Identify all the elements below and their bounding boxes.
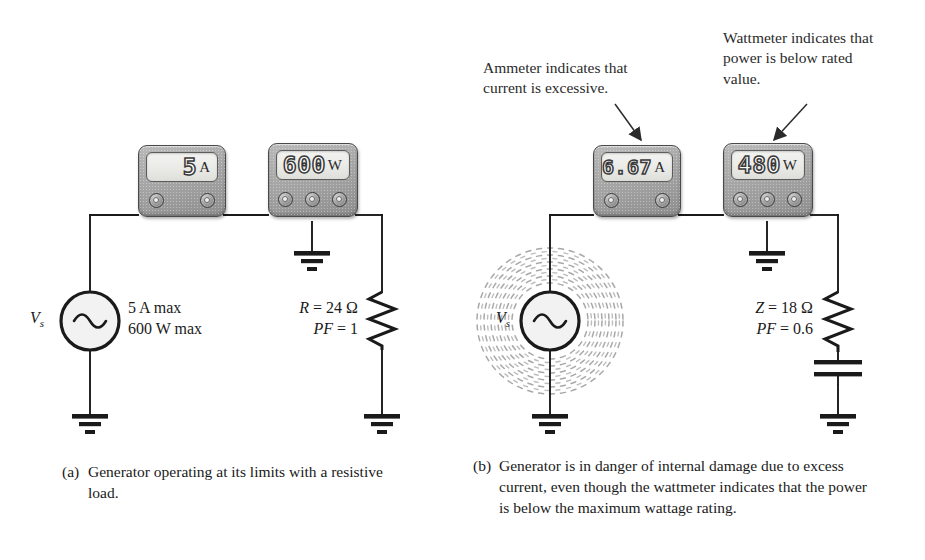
wattmeter-b-value: 480 [738, 154, 781, 177]
ammeter-b-display: 6.67 A [601, 152, 673, 182]
wattmeter-b-terminal-center[interactable] [760, 192, 775, 207]
source-rating-line2: 600 W max [128, 319, 202, 340]
wattmeter-a-value: 600 [283, 154, 326, 177]
caption-b: (b) Generator is in danger of internal d… [473, 455, 873, 518]
ammeter-b-terminal-left[interactable] [604, 193, 619, 208]
wattmeter-a-terminal-right[interactable] [332, 192, 347, 207]
capacitor-b [814, 360, 862, 376]
ground-load-b [820, 414, 856, 434]
source-symbol-b: Vs [496, 309, 510, 326]
wattmeter-a-terminal-center[interactable] [305, 192, 320, 207]
resistor-b [825, 292, 851, 352]
ammeter-a-value: 5 [183, 156, 197, 179]
ground-load-a [364, 414, 400, 434]
ground-wattmeter-b [749, 251, 785, 271]
wattmeter-b-terminal-right[interactable] [787, 192, 802, 207]
caption-a: (a) Generator operating at its limits wi… [62, 461, 392, 503]
ammeter-b[interactable]: 6.67 A [593, 145, 681, 217]
ac-source-a [61, 292, 119, 350]
wattmeter-a-display: 600 W [276, 150, 350, 180]
ammeter-annotation-arrow [615, 104, 641, 140]
load-pf-a: PF = 1 [218, 319, 358, 340]
annotation-wattmeter: Wattmeter indicates that power is below … [723, 28, 893, 89]
wattmeter-a[interactable]: 600 W [268, 143, 358, 217]
source-rating-line1: 5 A max [128, 298, 202, 319]
caption-b-text: Generator is in danger of internal damag… [499, 455, 873, 518]
panel-a: 5 A 600 W Vs 5 A max 600 W max R = 24 Ω … [0, 0, 462, 560]
ammeter-a[interactable]: 5 A [138, 145, 226, 217]
ammeter-b-unit: A [654, 160, 665, 175]
caption-b-label: (b) [473, 455, 491, 476]
wattmeter-a-terminal-left[interactable] [278, 192, 293, 207]
ammeter-b-value: 6.67 [602, 157, 652, 177]
ac-source-b [521, 292, 579, 350]
ammeter-a-terminal-right[interactable] [200, 193, 215, 208]
ammeter-a-terminal-left[interactable] [149, 193, 164, 208]
ammeter-a-display: 5 A [146, 152, 218, 182]
load-resistance-a: R = 24 Ω [218, 298, 358, 319]
wattmeter-b-display: 480 W [731, 150, 805, 180]
source-symbol-a: Vs [30, 309, 44, 326]
wattmeter-annotation-arrow [774, 104, 807, 140]
wattmeter-a-unit: W [328, 158, 342, 173]
source-label-a: Vs [30, 308, 44, 330]
caption-a-text: Generator operating at its limits with a… [88, 461, 392, 503]
load-impedance-b: Z = 18 Ω [673, 298, 813, 319]
load-pf-b: PF = 0.6 [673, 319, 813, 340]
wattmeter-b-unit: W [783, 158, 797, 173]
resistor-a [369, 292, 395, 350]
ammeter-b-terminal-right[interactable] [655, 193, 670, 208]
wattmeter-b-terminal-left[interactable] [733, 192, 748, 207]
annotation-ammeter: Ammeter indicates that current is excess… [483, 58, 661, 99]
ground-source-a [72, 414, 108, 434]
panel-b: Ammeter indicates that current is excess… [463, 0, 925, 560]
load-labels-a: R = 24 Ω PF = 1 [218, 298, 358, 340]
caption-a-label: (a) [62, 461, 79, 482]
ground-source-b [532, 414, 568, 434]
ground-wattmeter-a [294, 251, 330, 271]
load-labels-b: Z = 18 Ω PF = 0.6 [673, 298, 813, 340]
ammeter-a-unit: A [199, 160, 210, 175]
source-ratings-a: 5 A max 600 W max [128, 298, 202, 340]
wattmeter-b[interactable]: 480 W [723, 143, 813, 217]
source-label-b: Vs [496, 308, 510, 330]
